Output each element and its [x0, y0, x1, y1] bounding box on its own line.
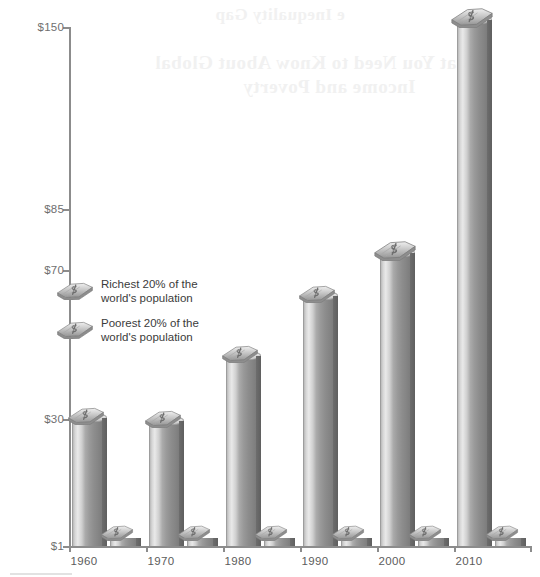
bar-poorest-2010: [495, 538, 526, 546]
x-axis-label-1980: 1980: [208, 555, 268, 567]
money-roll-icon-legend-richest: [55, 281, 95, 300]
x-tick-0: [69, 546, 71, 552]
legend-label-richest-line1: Richest 20% of the: [101, 278, 231, 292]
legend-item-richest: Richest 20% of the world's population: [55, 280, 235, 310]
bar-cap: [149, 416, 184, 425]
bar-cap: [457, 15, 492, 24]
bar-richest-1980: [226, 356, 261, 546]
bar-cap: [303, 291, 338, 300]
y-tick-label-1: $1: [51, 540, 64, 552]
bar-richest-1990: [303, 296, 338, 546]
bar-poorest-1980: [264, 538, 295, 546]
x-tick-6: [530, 546, 532, 552]
bar-richest-1960: [72, 418, 107, 546]
x-tick-4: [377, 546, 379, 552]
footer-rule: [10, 573, 72, 575]
y-tick-85: [63, 209, 70, 211]
legend-label-poorest-line1: Poorest 20% of the: [101, 317, 231, 331]
x-tick-5: [454, 546, 456, 552]
legend-label-poorest: Poorest 20% of the world's population: [101, 317, 231, 344]
bar-cap: [380, 248, 415, 257]
bar-poorest-1970: [187, 538, 218, 546]
bar-richest-2010: [457, 20, 492, 546]
y-tick-150: [63, 27, 70, 29]
chart-root: e Inequality Gap What You Need to Know A…: [0, 0, 540, 577]
bar-richest-2000: [380, 253, 415, 546]
x-axis-label-2000: 2000: [362, 555, 422, 567]
y-tick-label-150: $150: [38, 21, 64, 33]
bar-poorest-2000: [418, 538, 449, 546]
bleed-text-line1: What You Need to Know About Global: [155, 52, 487, 74]
bleed-text-line0: e Inequality Gap: [215, 5, 345, 25]
y-tick-label-70: $70: [44, 264, 64, 276]
x-axis-label-1970: 1970: [131, 555, 191, 567]
x-tick-2: [223, 546, 225, 552]
bar-poorest-1960: [110, 538, 141, 546]
money-roll-icon-legend-poorest: [55, 320, 95, 339]
bar-poorest-1990: [341, 538, 372, 546]
legend: Richest 20% of the world's population Po…: [55, 280, 235, 358]
x-axis-label-1960: 1960: [54, 555, 114, 567]
y-tick-label-85: $85: [44, 203, 64, 215]
bar-cap: [72, 413, 107, 422]
y-tick-30: [63, 419, 70, 421]
legend-label-richest-line2: world's population: [101, 292, 231, 306]
x-tick-3: [300, 546, 302, 552]
x-axis-label-2010: 2010: [439, 555, 499, 567]
bleed-text-line2: Income and Poverty: [243, 76, 416, 98]
x-tick-1: [146, 546, 148, 552]
legend-label-poorest-line2: world's population: [101, 331, 231, 345]
legend-item-poorest: Poorest 20% of the world's population: [55, 319, 235, 349]
x-axis-label-1990: 1990: [285, 555, 345, 567]
legend-label-richest: Richest 20% of the world's population: [101, 278, 231, 305]
bar-richest-1970: [149, 421, 184, 546]
y-tick-label-30: $30: [44, 413, 64, 425]
y-tick-70: [63, 270, 70, 272]
